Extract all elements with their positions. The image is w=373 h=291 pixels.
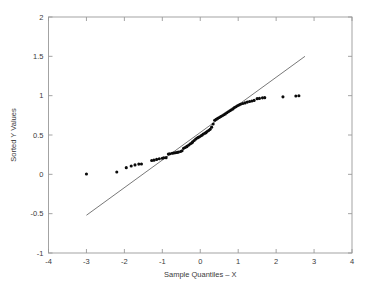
x-tick-label: 3 <box>312 257 316 266</box>
x-tick-label: 0 <box>198 257 202 266</box>
y-tick-label: -1 <box>37 249 44 258</box>
data-point <box>210 126 213 129</box>
data-point <box>212 122 215 125</box>
x-tick-label: -3 <box>83 257 90 266</box>
data-point <box>137 163 140 166</box>
data-point <box>152 159 155 162</box>
y-axis-title: Sorted Y Values <box>9 108 18 162</box>
x-tick-label: 4 <box>350 257 354 266</box>
x-tick-label: 1 <box>236 257 240 266</box>
x-axis-title: Sample Quantiles – X <box>164 270 237 279</box>
data-point <box>158 157 161 160</box>
y-tick-label: 2 <box>39 13 43 22</box>
data-point <box>165 156 168 159</box>
data-point <box>115 170 118 173</box>
qq-plot-canvas: -4-3-2-101234 -1-0.500.511.52 Sample Qua… <box>0 0 373 291</box>
y-tick-label: 0 <box>39 170 43 179</box>
y-tick-label: -0.5 <box>31 209 44 218</box>
data-point <box>263 96 266 99</box>
data-point <box>258 97 261 100</box>
x-tick-label: -4 <box>45 257 52 266</box>
qq-plot-figure: -4-3-2-101234 -1-0.500.511.52 Sample Qua… <box>0 0 373 291</box>
data-point <box>125 166 128 169</box>
data-point <box>85 172 88 175</box>
y-tick-label: 0.5 <box>33 131 43 140</box>
data-point <box>297 94 300 97</box>
data-point <box>140 162 143 165</box>
data-point <box>133 163 136 166</box>
y-tick-label: 1.5 <box>33 52 43 61</box>
y-tick-label: 1 <box>39 91 43 100</box>
data-point <box>130 165 133 168</box>
data-point <box>155 158 158 161</box>
x-tick-label: -1 <box>159 257 166 266</box>
x-tick-label: -2 <box>121 257 128 266</box>
x-tick-label: 2 <box>274 257 278 266</box>
data-point <box>253 99 256 102</box>
data-point <box>281 95 284 98</box>
data-point <box>294 95 297 98</box>
